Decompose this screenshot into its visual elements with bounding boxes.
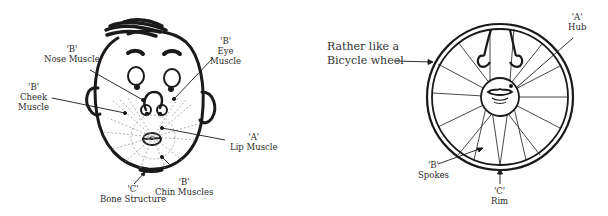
label-hub: 'A' Hub bbox=[568, 12, 586, 32]
spokes-name: Spokes bbox=[418, 170, 449, 180]
cheek-muscle-code: 'B' bbox=[18, 82, 49, 92]
left-eyebrow bbox=[128, 51, 143, 54]
cheek-muscle-name-1: Cheek bbox=[18, 92, 49, 102]
eye-muscle-name-2: Muscle bbox=[210, 56, 241, 66]
nose bbox=[144, 92, 162, 110]
cartoon-face bbox=[87, 20, 215, 172]
rim-code: 'C' bbox=[491, 186, 508, 196]
right-eyebrow bbox=[164, 51, 180, 54]
label-cheek-muscle: 'B' Cheek Muscle bbox=[18, 82, 49, 112]
hair bbox=[106, 20, 166, 36]
bone-structure-name: Bone Structure bbox=[100, 194, 166, 204]
label-rim: 'C' Rim bbox=[491, 186, 508, 206]
nose-muscle-name: Nose Muscle bbox=[44, 54, 100, 64]
left-eye bbox=[128, 67, 144, 85]
wheel-caption: Rather like a Bicycle wheel bbox=[327, 40, 404, 68]
lip-muscle-name: Lip Muscle bbox=[230, 142, 278, 152]
bone-structure-code: 'C' bbox=[100, 184, 166, 194]
label-bone-structure: 'C' Bone Structure bbox=[100, 184, 166, 204]
hub-name: Hub bbox=[568, 22, 586, 32]
wheel-nose bbox=[478, 30, 522, 67]
right-eye bbox=[164, 69, 180, 87]
hub-code: 'A' bbox=[568, 12, 586, 22]
left-ear bbox=[87, 88, 100, 115]
rim-name: Rim bbox=[491, 196, 508, 206]
head-outline bbox=[95, 31, 203, 169]
wheel-caption-line-1: Rather like a bbox=[327, 40, 404, 54]
illustration-canvas bbox=[0, 0, 608, 216]
spokes-code: 'B' bbox=[418, 160, 449, 170]
lip-muscle-code: 'A' bbox=[230, 132, 278, 142]
label-spokes: 'B' Spokes bbox=[418, 160, 449, 180]
nose-muscle-code: 'B' bbox=[44, 44, 100, 54]
cheek-muscle-name-2: Muscle bbox=[18, 102, 49, 112]
label-eye-muscle: 'B' Eye Muscle bbox=[210, 36, 241, 66]
label-lip-muscle: 'A' Lip Muscle bbox=[230, 132, 278, 152]
eye-muscle-code: 'B' bbox=[210, 36, 241, 46]
wheel-hub bbox=[481, 78, 519, 116]
label-nose-muscle: 'B' Nose Muscle bbox=[44, 44, 100, 64]
bicycle-wheel bbox=[427, 24, 573, 170]
wheel-caption-line-2: Bicycle wheel bbox=[327, 54, 404, 68]
eye-muscle-name-1: Eye bbox=[210, 46, 241, 56]
